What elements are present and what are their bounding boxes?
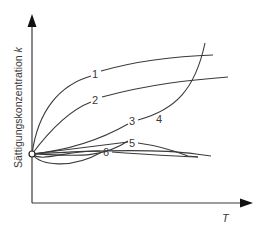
curve-2-tail: [102, 77, 228, 97]
curve-3-tail: [138, 43, 205, 120]
curve-1-label: 1: [92, 68, 98, 80]
x-axis-label: T: [222, 212, 230, 224]
y-axis-arrow-icon: [28, 14, 37, 27]
curve-1-tail: [101, 55, 213, 71]
origin-marker: [29, 151, 35, 157]
curve-3-label: 3: [129, 115, 135, 127]
x-axis-arrow-icon: [240, 199, 253, 208]
curve-labels: 1 2 3 4 5 6: [92, 68, 162, 158]
curve-5-label: 5: [129, 137, 135, 149]
curve-2-label: 2: [92, 94, 98, 106]
y-axis-label-text: Sättigungskonzentration: [12, 52, 24, 168]
curve-2: [32, 102, 91, 154]
saturation-concentration-diagram: 1 2 3 4 5 6 T Sättigungskonzentration k: [0, 0, 266, 228]
curve-6-label: 6: [103, 146, 109, 158]
curve-4-label: 4: [156, 113, 162, 125]
y-axis-label-var: k: [12, 46, 24, 52]
curve-3: [32, 124, 128, 154]
axes: [28, 14, 254, 208]
y-axis-label: Sättigungskonzentration k: [12, 46, 24, 168]
